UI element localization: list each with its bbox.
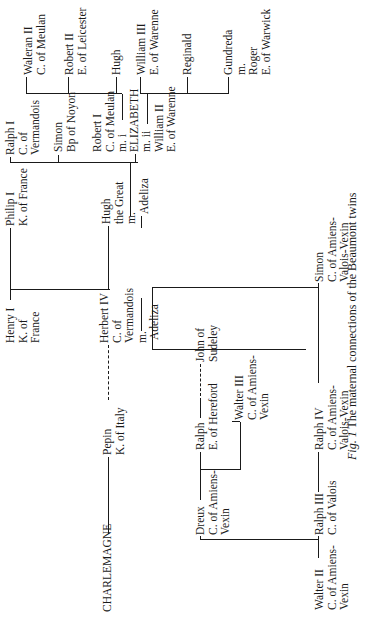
node-title: Bp of Noyon	[65, 92, 78, 152]
line-dreux-children	[200, 469, 240, 470]
node-label: Herbert IV	[98, 288, 111, 343]
node-label: Ralph I	[4, 100, 17, 155]
line-henry-tick	[10, 290, 11, 300]
node-title: Vermandois	[29, 100, 42, 155]
node-william-iii: William III E. of Warenne	[135, 9, 160, 75]
node-ralph-iii: Ralph III C. of Valois	[313, 481, 338, 535]
node-label: Henry I	[4, 308, 17, 343]
line-gundreda	[228, 77, 229, 94]
node-label: Simon	[313, 217, 326, 282]
node-title: E. of Warwick	[260, 9, 273, 75]
line-william-iii	[140, 77, 141, 94]
line-adeliza-descent	[152, 349, 306, 350]
line-simon-bp	[58, 155, 59, 163]
node-label: Robert I	[91, 91, 104, 152]
node-label: Reginald	[181, 33, 194, 75]
node-label: Walter II	[313, 545, 326, 610]
node-label: Ralph III	[313, 481, 326, 535]
figure-caption: Fig. 1 The maternal connections of the B…	[346, 193, 359, 460]
node-title: Vexin	[258, 355, 271, 420]
line-ralph-i	[10, 157, 11, 163]
marriage-mark: m.	[125, 182, 138, 224]
node-philip-i: Philip I K. of France	[4, 168, 29, 226]
node-title: E. of Warenne	[148, 9, 161, 75]
node-label: Philip I	[4, 168, 17, 226]
line-simon-amiens	[152, 287, 318, 288]
caption-text: The maternal connections of the Beaumont…	[345, 193, 359, 429]
dashed-line-pepin-herbert	[108, 345, 109, 400]
line-reginald	[187, 77, 188, 94]
line-henry-philip-hugh	[10, 289, 110, 290]
node-gundreda: Gundreda m. Roger E. of Warwick	[222, 9, 272, 75]
line-herbert-marriage	[141, 298, 142, 331]
node-label: William III	[135, 9, 148, 75]
node-pepin: Pepin K. of Italy	[101, 407, 126, 455]
node-title: K. of	[17, 308, 30, 343]
line-robert-ii	[68, 77, 69, 94]
line-to-ralph-hereford	[200, 452, 201, 470]
node-william-ii: m. ii William II E. of Warenne	[140, 86, 178, 152]
node-title: Vexin	[219, 470, 232, 535]
node-label: Adeliza	[148, 304, 161, 340]
node-elizabeth: ELIZABETH	[128, 89, 141, 152]
line-ralph-hereford	[200, 398, 201, 418]
line-to-hugh-great	[108, 226, 109, 290]
node-reginald: Reginald	[181, 33, 194, 75]
node-title: C. of Meulan	[104, 91, 117, 152]
node-john-of-sudeley: John of Sudeley	[194, 325, 219, 362]
node-label: John of	[194, 325, 207, 362]
node-waleran-ii: Waleran II C. of Meulan	[22, 14, 47, 75]
node-adeliza-hugh: Adeliza	[138, 178, 151, 214]
node-label: Simon	[52, 92, 65, 152]
line-ralph-iii-iv	[318, 452, 319, 492]
node-title: E. of Hereford	[207, 383, 220, 450]
node-title: France	[29, 308, 42, 343]
node-hugh: Hugh	[110, 49, 123, 75]
line-elizabeth	[135, 154, 136, 163]
node-title: C. of Amiens-	[246, 355, 259, 420]
node-title: Vermandois	[123, 288, 136, 343]
line-meulan-children	[26, 93, 122, 94]
node-walter-iii: Walter III C. of Amiens- Vexin	[233, 355, 271, 420]
node-label: Hugh	[100, 182, 113, 224]
marriage-mark: m.	[235, 9, 248, 75]
line-walter-ii-children	[200, 539, 318, 540]
caption-fig-label: Fig. 1	[345, 431, 359, 460]
dashed-line-ralph-john	[200, 364, 201, 396]
node-title: C. of Meulan	[35, 14, 48, 75]
node-label: Adeliza	[138, 178, 151, 214]
line-adeliza-simon	[152, 288, 153, 350]
line-charlemagne-pepin	[108, 457, 109, 534]
node-label: Gundreda	[222, 9, 235, 75]
line-robert-marriage	[122, 94, 123, 120]
node-title: Vexin	[338, 545, 351, 610]
node-label: Robert II	[63, 8, 76, 75]
line-ralph-iv-simon	[318, 288, 319, 383]
line-walter-iii-tick	[232, 421, 240, 422]
node-title: C. of	[17, 100, 30, 155]
line-hugh-child	[116, 77, 117, 94]
node-ralph-i: Ralph I C. of Vermandois	[4, 100, 42, 155]
line-dreux-spouse	[200, 470, 201, 500]
node-spouse: Roger	[247, 9, 260, 75]
node-label: Walter III	[233, 355, 246, 420]
node-label: ELIZABETH	[128, 89, 141, 152]
node-title: K. of France	[17, 168, 30, 226]
node-title: C. of Amiens-	[326, 217, 339, 282]
node-simon-bp: Simon Bp of Noyon	[52, 92, 77, 152]
line-ralph-branch	[10, 162, 138, 163]
node-ralph-hereford: Ralph E. of Hereford	[194, 383, 219, 450]
node-charlemagne: CHARLEMAGNE	[101, 524, 114, 612]
node-title: C. of Amiens-	[326, 545, 339, 610]
node-adeliza-herbert: Adeliza	[148, 304, 161, 340]
node-label: Pepin	[101, 407, 114, 455]
family-tree-diagram: CHARLEMAGNE Pepin K. of Italy Herbert IV…	[0, 0, 367, 618]
node-title: C. of Amiens-	[326, 385, 339, 450]
node-title: Sudeley	[207, 325, 220, 362]
node-title: K. of Italy	[114, 407, 127, 455]
node-label: CHARLEMAGNE	[101, 524, 114, 612]
line-to-walter-iii	[240, 422, 241, 470]
line-waleran	[26, 77, 27, 94]
node-title: C. of Valois	[326, 481, 339, 535]
node-robert-ii: Robert II E. of Leicester	[63, 8, 88, 75]
